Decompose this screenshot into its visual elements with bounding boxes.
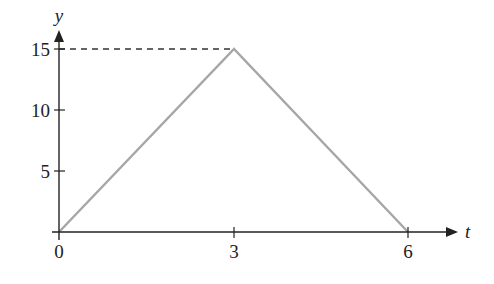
y-tick-label-5: 5 <box>41 161 51 182</box>
chart: 0 3 6 5 10 15 t y <box>0 0 494 284</box>
x-axis-arrow-icon <box>446 227 458 237</box>
y-tick-label-10: 10 <box>31 100 50 121</box>
data-line <box>59 49 408 232</box>
chart-svg: 0 3 6 5 10 15 t y <box>0 0 494 284</box>
x-tick-label-0: 0 <box>54 241 64 262</box>
y-axis-arrow-icon <box>54 30 64 42</box>
x-tick-label-6: 6 <box>403 241 413 262</box>
x-tick-label-3: 3 <box>229 241 239 262</box>
y-tick-label-15: 15 <box>31 39 50 60</box>
x-axis-label: t <box>465 221 471 242</box>
y-axis-label: y <box>53 5 64 26</box>
